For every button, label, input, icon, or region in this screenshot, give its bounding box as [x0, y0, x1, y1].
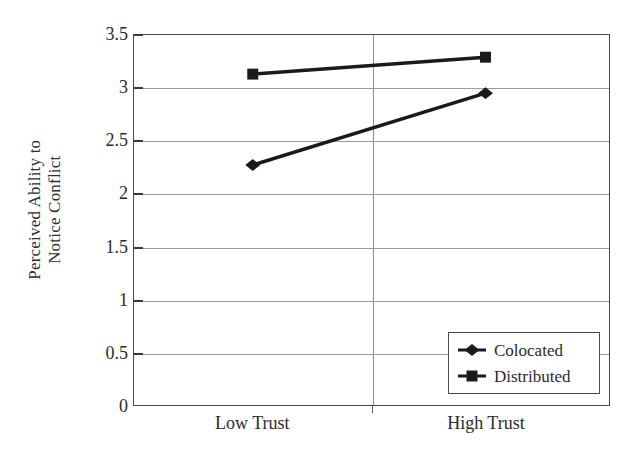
legend-label: Distributed	[494, 368, 571, 385]
y-axis-tick-label: 3	[119, 78, 128, 96]
chart-legend: ColocatedDistributed	[448, 332, 600, 394]
series-line	[253, 93, 486, 165]
y-axis-tick-labels: 00.511.522.533.5	[84, 0, 128, 456]
chart-figure: Notice Conflict Perceived Ability to 00.…	[0, 0, 636, 456]
y-axis-tick-label: 2	[119, 184, 128, 202]
x-axis-tick-label: High Trust	[447, 412, 525, 435]
diamond-marker-icon	[457, 342, 487, 358]
y-axis-tick-label: 1	[119, 291, 128, 309]
square-marker-icon	[457, 368, 487, 384]
diamond-marker-icon	[478, 87, 493, 99]
series-colocated	[245, 87, 493, 171]
x-axis-tick-labels: Low TrustHigh Trust	[0, 412, 636, 452]
x-axis-tick-label: Low Trust	[215, 412, 290, 435]
square-marker-icon	[480, 52, 491, 63]
y-axis-title: Notice Conflict Perceived Ability to	[0, 0, 90, 420]
square-marker-icon	[247, 69, 258, 80]
y-axis-tick-label: 2.5	[106, 131, 129, 149]
diamond-marker-icon	[465, 344, 480, 356]
square-marker-icon	[467, 371, 478, 382]
y-axis-title-line-2: Notice Conflict	[45, 156, 65, 264]
series-line	[253, 57, 486, 74]
legend-entry[interactable]: Distributed	[457, 364, 593, 388]
diamond-marker-icon	[245, 159, 260, 171]
y-axis-title-line-1: Perceived Ability to	[25, 140, 45, 280]
y-axis-tick-label: 0.5	[106, 344, 129, 362]
y-axis-tick-label: 1.5	[106, 238, 129, 256]
legend-label: Colocated	[494, 342, 563, 359]
legend-entry[interactable]: Colocated	[457, 338, 593, 362]
series-distributed	[247, 52, 491, 80]
y-axis-tick-label: 3.5	[106, 25, 129, 43]
